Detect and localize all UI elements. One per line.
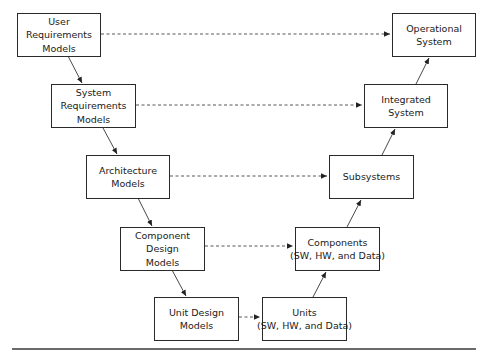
box-label-line: System <box>406 35 462 49</box>
box-label-line: Models <box>169 319 224 333</box>
arrow-integrated-to-operational <box>416 58 429 84</box>
box-label-line: Integrated <box>381 93 431 107</box>
box-label-line: Requirements <box>60 99 126 113</box>
box-units: Units (SW, HW, and Data) <box>262 297 347 341</box>
box-label-line: (SW, HW, and Data) <box>290 249 385 263</box>
box-label-line: (SW, HW, and Data) <box>257 319 352 333</box>
box-architecture-models: Architecture Models <box>86 155 170 199</box>
box-label-line: Operational <box>406 22 462 36</box>
box-label-line: Requirements <box>26 28 92 42</box>
box-label-line: Design <box>135 242 190 256</box>
arrow-user-to-system <box>68 56 82 83</box>
box-operational-system: Operational System <box>392 13 476 57</box>
box-label-line: Subsystems <box>343 170 400 184</box>
arrow-components-to-subsystems <box>347 200 361 227</box>
box-label-line: Components <box>290 236 385 250</box>
box-subsystems: Subsystems <box>329 155 414 199</box>
box-label-line: System <box>60 86 126 100</box>
arrow-units-to-components <box>313 272 326 297</box>
arrow-architecture-to-component <box>138 198 152 226</box>
box-components: Components (SW, HW, and Data) <box>295 227 380 271</box>
box-label-line: System <box>381 106 431 120</box>
arrow-component-to-unit <box>172 270 186 296</box>
box-label-line: Models <box>60 113 126 127</box>
box-label-line: Component <box>135 229 190 243</box>
box-label-line: Models <box>99 177 157 191</box>
box-label-line: Unit Design <box>169 306 224 320</box>
box-component-design-models: Component Design Models <box>120 227 205 271</box>
box-system-requirements-models: System Requirements Models <box>51 84 136 128</box>
arrow-system-to-architecture <box>103 128 117 154</box>
box-label-line: Models <box>135 256 190 270</box>
box-label-line: Units <box>257 306 352 320</box>
box-integrated-system: Integrated System <box>364 84 448 128</box>
box-label-line: User <box>26 15 92 29</box>
box-label-line: Models <box>26 42 92 56</box>
bottom-divider <box>12 348 476 350</box>
box-label-line: Architecture <box>99 164 157 178</box>
box-user-requirements-models: User Requirements Models <box>17 13 101 57</box>
arrow-subsystems-to-integrated <box>382 129 395 155</box>
box-unit-design-models: Unit Design Models <box>154 297 239 341</box>
